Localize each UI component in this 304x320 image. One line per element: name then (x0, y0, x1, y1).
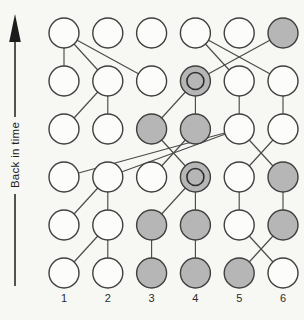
open-node-r5c2 (93, 210, 123, 240)
shaded-node-r4c6 (268, 162, 298, 192)
shaded-node-r3c4 (180, 114, 210, 144)
arrow-head (9, 14, 21, 42)
open-node-r3c2 (93, 114, 123, 144)
open-node-r4c5 (224, 162, 254, 192)
column-label-2: 2 (97, 292, 119, 304)
open-node-r6c1 (49, 258, 79, 288)
open-node-r4c3 (137, 162, 167, 192)
edges-layer (64, 33, 283, 273)
axis-label-text: Back in time (9, 122, 21, 188)
shaded-node-r5c4 (180, 210, 210, 240)
open-node-r1c4 (180, 18, 210, 48)
mutation-ring-r4c4 (187, 169, 204, 186)
shaded-node-r6c3 (137, 258, 167, 288)
open-node-r2c6 (268, 66, 298, 96)
column-label-3: 3 (141, 292, 163, 304)
open-node-r5c1 (49, 210, 79, 240)
open-node-r3c5 (224, 114, 254, 144)
open-node-r5c5 (224, 210, 254, 240)
genealogy-figure: Back in time 123456 (0, 0, 304, 320)
open-node-r6c6 (268, 258, 298, 288)
open-node-r2c5 (224, 66, 254, 96)
shaded-node-r5c3 (137, 210, 167, 240)
open-node-r6c2 (93, 258, 123, 288)
open-node-r2c2 (93, 66, 123, 96)
open-node-r4c1 (49, 162, 79, 192)
shaded-node-r6c5 (224, 258, 254, 288)
column-label-6: 6 (272, 292, 294, 304)
column-label-5: 5 (228, 292, 250, 304)
shaded-node-r1c6 (268, 18, 298, 48)
open-node-r1c5 (224, 18, 254, 48)
open-node-r1c2 (93, 18, 123, 48)
open-node-r4c2 (93, 162, 123, 192)
open-node-r2c3 (137, 66, 167, 96)
genealogy-diagram (0, 0, 304, 320)
open-node-r1c3 (137, 18, 167, 48)
open-node-r3c1 (49, 114, 79, 144)
mutation-ring-r2c4 (187, 73, 204, 90)
column-label-4: 4 (184, 292, 206, 304)
shaded-node-r5c6 (268, 210, 298, 240)
open-node-r3c6 (268, 114, 298, 144)
shaded-node-r6c4 (180, 258, 210, 288)
open-node-r2c1 (49, 66, 79, 96)
shaded-node-r3c3 (137, 114, 167, 144)
column-label-1: 1 (53, 292, 75, 304)
open-node-r1c1 (49, 18, 79, 48)
